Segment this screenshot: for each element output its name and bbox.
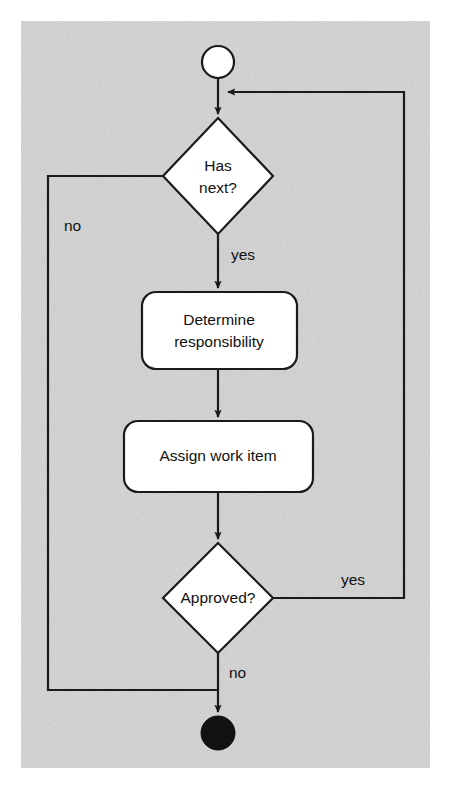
edge-label-approved-yes: yes (341, 571, 365, 588)
final-node-circle[interactable] (201, 716, 235, 750)
node-start[interactable] (202, 46, 234, 78)
activity-diagram-root: Has next? Determine responsibility Assig… (0, 0, 452, 789)
node-label-approved: Approved? (181, 589, 256, 606)
initial-node-circle[interactable] (202, 46, 234, 78)
edge-label-has-next-no: no (64, 217, 81, 234)
edge-label-has-next-yes: yes (231, 246, 255, 263)
node-determine-responsibility[interactable]: Determine responsibility (142, 292, 297, 369)
edge-label-approved-no: no (229, 664, 246, 681)
node-label-has-next-line1: Has (204, 157, 232, 174)
node-assign-work-item[interactable]: Assign work item (124, 421, 313, 492)
action-box-determine-responsibility[interactable] (142, 292, 297, 369)
node-label-has-next-line2: next? (199, 179, 237, 196)
node-label-determine-responsibility-line2: responsibility (174, 333, 264, 350)
node-end[interactable] (201, 716, 235, 750)
node-label-determine-responsibility-line1: Determine (183, 311, 255, 328)
activity-diagram-canvas: Has next? Determine responsibility Assig… (0, 0, 452, 789)
node-label-assign-work-item: Assign work item (159, 447, 276, 464)
